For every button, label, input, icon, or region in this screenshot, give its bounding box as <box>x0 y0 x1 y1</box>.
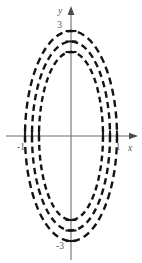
x-tick-label-neg-1: -1 <box>17 142 25 152</box>
x-axis-arrowhead <box>129 133 138 140</box>
y-axis-label: y <box>57 6 63 16</box>
x-tick-label-1: 1 <box>116 142 121 152</box>
y-tick-label-3: 3 <box>57 20 62 30</box>
y-tick-label-neg-3: -3 <box>56 241 64 251</box>
plot-canvas: y x 3 -3 -1 1 <box>0 0 142 263</box>
x-axis-label: x <box>127 143 133 153</box>
ellipse-figure: y x 3 -3 -1 1 <box>0 0 142 263</box>
y-axis-arrowhead <box>68 6 75 15</box>
